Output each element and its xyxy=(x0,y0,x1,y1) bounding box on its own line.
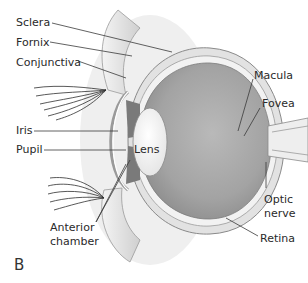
label-fovea: Fovea xyxy=(262,98,295,110)
label-macula: Macula xyxy=(254,70,293,82)
label-conjunctiva: Conjunctiva xyxy=(16,57,81,69)
label-retina: Retina xyxy=(260,233,295,245)
optic-nerve-shape xyxy=(268,118,308,162)
label-optic-nerve-line2: nerve xyxy=(264,208,296,220)
panel-label: B xyxy=(14,256,24,274)
label-optic-nerve-line1: Optic xyxy=(264,194,293,206)
label-fornix: Fornix xyxy=(16,37,50,49)
eye-anatomy-diagram: Sclera Fornix Conjunctiva Iris Pupil Len… xyxy=(0,0,308,283)
lens-shape xyxy=(133,108,167,176)
label-anterior-chamber-line2: chamber xyxy=(50,236,99,248)
label-iris: Iris xyxy=(16,125,33,137)
label-pupil: Pupil xyxy=(16,144,43,156)
label-anterior-chamber-line1: Anterior xyxy=(50,222,94,234)
label-lens: Lens xyxy=(134,144,159,156)
label-sclera: Sclera xyxy=(16,17,50,29)
